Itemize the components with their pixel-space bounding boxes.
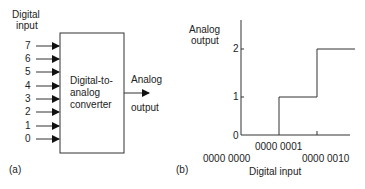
staircase-line: [279, 49, 355, 135]
panel-a-label: (a): [9, 164, 21, 175]
input-label-1: 1: [25, 120, 31, 131]
x-tick-0000: 0000 0000: [203, 153, 250, 164]
y-tick-1: 1: [233, 91, 239, 102]
input-label-4: 4: [25, 80, 31, 91]
y-axis-label-2: output: [191, 35, 219, 46]
x-axis-label: Digital input: [249, 166, 301, 177]
x-tick-0001: 0000 0001: [255, 141, 302, 152]
analog-output-label-1: Analog: [131, 74, 162, 85]
x-tick-0010: 0000 0010: [302, 153, 349, 164]
dac-label-2: analog: [70, 87, 100, 98]
panel-b-label: (b): [176, 164, 188, 175]
input-label-3: 3: [25, 93, 31, 104]
analog-output-label-2: output: [131, 102, 159, 113]
dac-label-1: Digital-to-: [70, 75, 113, 86]
y-tick-0: 0: [233, 130, 239, 141]
dac-label-3: converter: [70, 99, 112, 110]
input-label-5: 5: [25, 66, 31, 77]
input-label-0: 0: [25, 133, 31, 144]
y-axis-label-1: Analog: [189, 24, 220, 35]
input-label-6: 6: [25, 53, 31, 64]
input-label-7: 7: [25, 40, 31, 51]
y-tick-2: 2: [233, 43, 239, 54]
input-arrows: [36, 46, 59, 139]
input-label-2: 2: [25, 106, 31, 117]
digital-input-title-1: Digital: [12, 9, 40, 20]
digital-input-title-2: input: [16, 20, 38, 31]
